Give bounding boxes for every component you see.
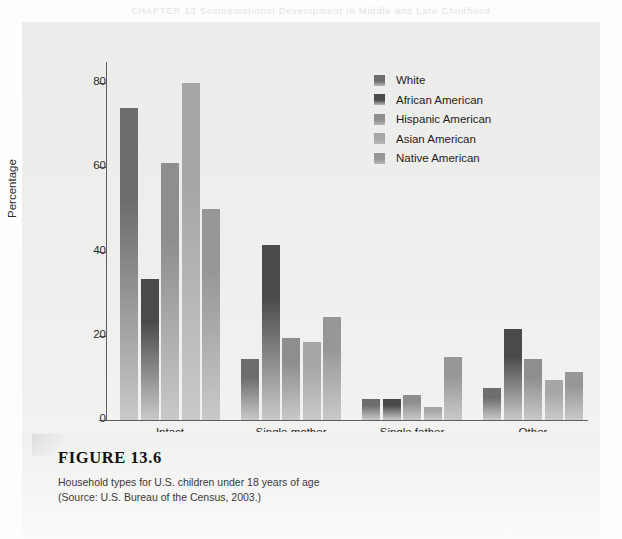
y-tick-label-40: 40 xyxy=(76,244,106,256)
y-tick-label-20: 20 xyxy=(76,328,106,340)
legend-item: White xyxy=(374,74,491,86)
bar xyxy=(403,395,421,420)
figure-caption-block: FIGURE 13.6 Household types for U.S. chi… xyxy=(22,432,600,539)
legend-label: African American xyxy=(396,94,483,106)
bar xyxy=(424,407,442,420)
bar-group xyxy=(241,62,341,420)
legend-label: Asian American xyxy=(396,133,476,145)
bar xyxy=(565,372,583,420)
y-axis-ticks: 020406080 xyxy=(22,22,106,432)
legend-item: Native American xyxy=(374,152,491,164)
y-axis-title: Percentage xyxy=(6,159,18,218)
page-header-ghost: CHAPTER 13 Socioemotional Development in… xyxy=(0,0,622,22)
bar xyxy=(141,279,159,420)
legend-label: White xyxy=(396,74,425,86)
legend-swatch-icon xyxy=(374,153,385,164)
bar xyxy=(504,329,522,420)
bar xyxy=(362,399,380,420)
legend-item: Asian American xyxy=(374,133,491,145)
legend-swatch-icon xyxy=(374,114,385,125)
y-tick-label-60: 60 xyxy=(76,159,106,171)
chart-panel: 020406080 Percentage Family structure Wh… xyxy=(22,22,600,432)
bar xyxy=(524,359,542,420)
y-tick-label-0: 0 xyxy=(76,412,106,424)
legend-label: Native American xyxy=(396,152,480,164)
legend-swatch-icon xyxy=(374,75,385,86)
bar xyxy=(444,357,462,420)
figure-source-text: (Source: U.S. Bureau of the Census, 2003… xyxy=(58,491,261,503)
bar xyxy=(202,209,220,420)
y-tick-label-80: 80 xyxy=(76,75,106,87)
bar-group xyxy=(120,62,220,420)
plot-area xyxy=(106,62,588,420)
legend-item: Hispanic American xyxy=(374,113,491,125)
bar xyxy=(303,342,321,420)
bar xyxy=(545,380,563,420)
legend-item: African American xyxy=(374,94,491,106)
bar xyxy=(182,83,200,420)
legend-swatch-icon xyxy=(374,133,385,144)
bar xyxy=(383,399,401,420)
bar xyxy=(323,317,341,420)
legend: WhiteAfrican AmericanHispanic AmericanAs… xyxy=(374,74,491,172)
legend-swatch-icon xyxy=(374,94,385,105)
bar xyxy=(161,163,179,420)
bar xyxy=(120,108,138,420)
bar xyxy=(483,388,501,420)
bar-group xyxy=(483,62,583,420)
bar xyxy=(282,338,300,420)
legend-label: Hispanic American xyxy=(396,113,491,125)
bar xyxy=(241,359,259,420)
bar xyxy=(262,245,280,420)
figure-caption-text: Household types for U.S. children under … xyxy=(58,476,320,488)
figure-number: FIGURE 13.6 xyxy=(58,448,162,468)
x-axis-line xyxy=(106,420,588,421)
